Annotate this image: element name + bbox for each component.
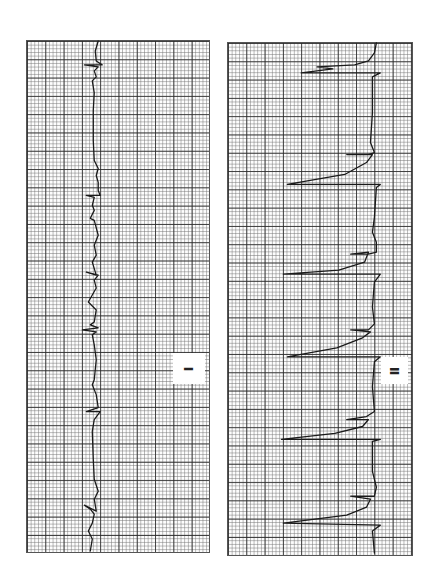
lead-label-2: II: [387, 367, 402, 375]
ecg-trace-lead-2: [228, 43, 412, 555]
ecg-strip-lead-1: [26, 40, 210, 553]
lead-label-box-1: I: [173, 353, 205, 384]
lead-label-box-2: II: [381, 357, 408, 384]
ecg-trace-lead-1: [27, 41, 209, 552]
ecg-strip-lead-2: [227, 42, 413, 556]
lead-label-1: I: [182, 367, 197, 371]
